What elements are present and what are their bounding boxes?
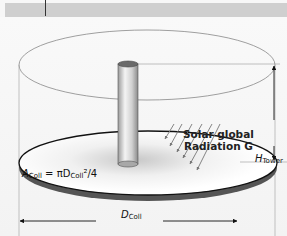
tower-icon	[118, 61, 138, 167]
diagram-canvas	[0, 0, 287, 236]
radiation-label-line2: Radiation G	[183, 140, 254, 152]
collector-diameter-label: DColl	[121, 210, 142, 221]
tower-height-symbol: H	[255, 153, 263, 164]
radiation-label: Solar global Radiation G	[183, 128, 254, 152]
diameter-subscript: Coll	[129, 213, 142, 221]
area-eq: = πD	[42, 168, 70, 179]
area-sub2: Coll	[70, 172, 83, 180]
area-tail: ²/4	[83, 168, 97, 179]
collector-area-formula: AColl = πDColl²/4	[22, 169, 97, 180]
tower-height-label: HTower	[255, 154, 283, 165]
diameter-symbol: D	[121, 209, 129, 220]
tower-height-subscript: Tower	[263, 157, 283, 165]
area-subscript: Coll	[29, 172, 42, 180]
area-symbol: A	[22, 168, 29, 179]
radiation-label-line1: Solar global	[183, 128, 254, 140]
